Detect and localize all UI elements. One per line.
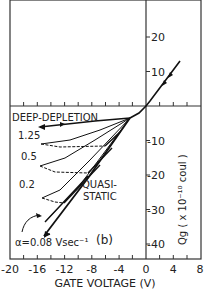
label-deep-depletion: DEEP-DEPLETION <box>12 112 98 123</box>
svg-text:0: 0 <box>143 263 150 276</box>
chart: -20 -16 -12 -8 -4 0 4 8 GATE VOLTAGE (V)… <box>0 0 208 291</box>
label-1-25: 1.25 <box>18 130 40 141</box>
svg-text:-12: -12 <box>56 263 74 276</box>
label-quasi: QUASI- <box>82 179 117 190</box>
svg-text:-10: -10 <box>147 135 165 148</box>
svg-text:-4: -4 <box>114 263 125 276</box>
x-axis-label: GATE VOLTAGE (V) <box>54 277 155 290</box>
label-alpha: α=0.08 Vsec⁻¹ <box>15 237 88 248</box>
curve-0-08 <box>45 118 130 222</box>
label-0-5: 0.5 <box>21 151 37 162</box>
x-tick-labels: -20 -16 -12 -8 -4 0 4 8 <box>1 263 203 276</box>
svg-text:-8: -8 <box>86 263 97 276</box>
svg-text:-20: -20 <box>1 263 19 276</box>
svg-text:-40: -40 <box>147 238 165 251</box>
svg-text:8: 8 <box>197 263 204 276</box>
svg-text:4: 4 <box>170 263 177 276</box>
annotations: DEEP-DEPLETION 1.25 0.5 0.2 QUASI- STATI… <box>12 112 117 248</box>
y-tick-labels: 20 10 -10 -20 -30 -40 <box>147 31 165 251</box>
svg-text:-16: -16 <box>28 263 46 276</box>
svg-text:-20: -20 <box>147 169 165 182</box>
curve-knee <box>130 106 146 118</box>
y-axis-label: Qg ( x 10⁻¹⁰ coul ) <box>177 154 188 245</box>
svg-text:10: 10 <box>151 66 165 79</box>
label-static: STATIC <box>83 191 117 202</box>
label-0-2: 0.2 <box>19 179 35 190</box>
svg-text:-30: -30 <box>147 204 165 217</box>
svg-text:20: 20 <box>151 31 165 44</box>
panel-label: (b) <box>96 233 113 247</box>
